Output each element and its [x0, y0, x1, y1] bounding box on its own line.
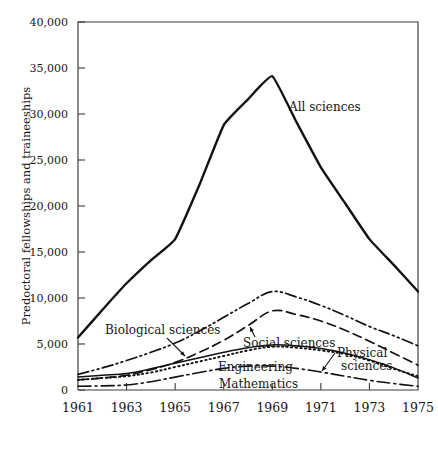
series-annotation-biological-sciences: Biological sciences	[105, 323, 221, 337]
x-tick-label: 1963	[111, 400, 143, 415]
y-tick-label: 15,000	[30, 246, 69, 259]
x-tick-label: 1965	[159, 400, 191, 415]
y-tick-label: 0	[61, 384, 68, 397]
y-tick-label: 30,000	[30, 108, 69, 121]
series-annotation-all-sciences: All sciences	[288, 100, 361, 114]
series-annotation-social-sciences: Social sciences	[243, 336, 335, 350]
y-tick-label: 5,000	[37, 338, 69, 351]
x-tick-label: 1971	[305, 400, 337, 415]
series-annotation-physical-sciences: Physicalsciences	[337, 346, 393, 373]
line-chart: 05,00010,00015,00020,00025,00030,00035,0…	[0, 0, 438, 450]
series-line-all-sciences	[78, 76, 418, 337]
annotation-arrowhead	[322, 366, 327, 371]
y-axis-title: Predoctoral fellowships and traineeships	[19, 87, 33, 325]
y-tick-label: 40,000	[30, 16, 69, 29]
y-tick-label: 35,000	[30, 62, 69, 75]
y-tick-label: 20,000	[30, 200, 69, 213]
x-tick-label: 1967	[208, 400, 240, 415]
x-tick-label: 1975	[402, 400, 434, 415]
series-annotation-mathematics: Mathematics	[219, 377, 298, 391]
series-annotation-engineering: Engineering	[218, 360, 293, 374]
chart-figure: 05,00010,00015,00020,00025,00030,00035,0…	[0, 0, 438, 450]
y-axis: 05,00010,00015,00020,00025,00030,00035,0…	[30, 16, 86, 397]
x-tick-label: 1961	[62, 400, 94, 415]
x-tick-label: 1969	[256, 400, 288, 415]
y-tick-label: 10,000	[30, 292, 69, 305]
x-tick-label: 1973	[354, 400, 386, 415]
y-tick-label: 25,000	[30, 154, 69, 167]
annotations-group: All sciencesBiological sciencesSocial sc…	[105, 100, 393, 391]
